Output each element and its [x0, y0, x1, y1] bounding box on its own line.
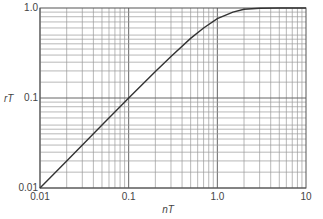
- y-tick-label: 1.0: [24, 2, 38, 13]
- grid-lines: [40, 8, 306, 188]
- x-tick-labels: 0.010.11.010: [30, 191, 312, 202]
- x-tick-label: 10: [300, 191, 312, 202]
- y-tick-label: 0.01: [19, 182, 39, 193]
- y-tick-labels: 0.010.11.0: [19, 2, 39, 193]
- y-axis-label: rT: [4, 93, 14, 104]
- y-tick-label: 0.1: [24, 92, 38, 103]
- x-axis-label: nT: [162, 204, 175, 215]
- log-log-chart: 0.010.11.010 0.010.11.0 nT rT: [0, 0, 323, 219]
- x-tick-label: 1.0: [210, 191, 224, 202]
- x-tick-label: 0.1: [122, 191, 136, 202]
